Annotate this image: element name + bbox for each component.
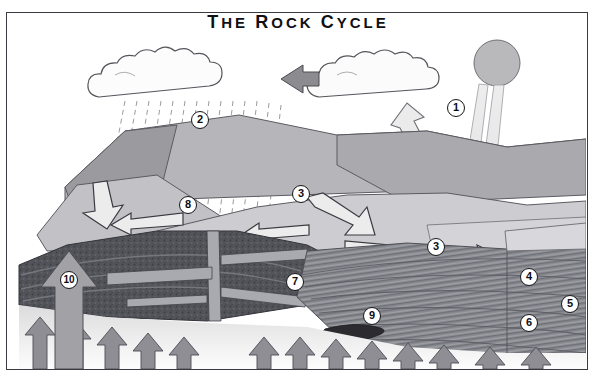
callout-8[interactable]: 8 (179, 196, 197, 214)
callout-5[interactable]: 5 (561, 295, 579, 313)
callout-1[interactable]: 1 (447, 99, 465, 117)
callout-2[interactable]: 2 (191, 111, 209, 129)
title-part-1: T (207, 12, 221, 32)
callout-7[interactable]: 7 (286, 273, 304, 291)
diagram-frame: THE ROCK CYCLE (6, 12, 588, 370)
callout-6[interactable]: 6 (520, 314, 538, 332)
diagram-canvas: 1 2 3 3 4 5 6 7 8 9 10 Heat from interio… (7, 35, 586, 369)
title-part-4: OCK (271, 14, 321, 31)
title-part-5: C (321, 12, 337, 32)
rock-cycle-diagram: THE ROCK CYCLE (0, 0, 596, 382)
sun-icon (474, 40, 520, 86)
title-part-2: HE (221, 14, 255, 31)
callout-9[interactable]: 9 (363, 307, 381, 325)
callout-3a[interactable]: 3 (292, 185, 310, 203)
title-part-3: R (255, 12, 271, 32)
callout-4[interactable]: 4 (520, 268, 538, 286)
page-title: THE ROCK CYCLE (7, 12, 588, 33)
title-part-6: YCLE (337, 14, 389, 31)
callout-10[interactable]: 10 (60, 271, 78, 289)
callout-3b[interactable]: 3 (427, 238, 445, 256)
